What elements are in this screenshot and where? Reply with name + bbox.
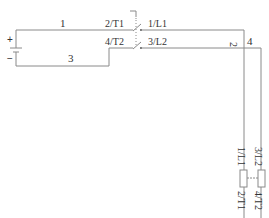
battery-minus-label: − [7,53,13,64]
switch-terminal-3l2: 3/L2 [148,36,167,47]
wire-3 [16,48,133,66]
relay-label-1l1: 1/L1 [236,147,247,166]
wire-4 [141,48,261,150]
relay-label-3l2: 3/L2 [253,147,264,166]
wire-3-label: 3 [68,52,74,64]
battery-symbol: + − [7,30,22,66]
wire-4-label: 4 [247,35,253,47]
switch-terminal-4t2: 4/T2 [105,36,124,47]
wire-1-label: 1 [60,17,66,29]
wiring-diagram: + − 1 3 2/T1 4/T2 1/L1 3/L2 2 4 1/L1 3/L… [0,0,269,218]
battery-plus-label: + [7,34,13,45]
relay-label-2t1: 2/T1 [236,191,247,210]
relay-label-4t2: 4/T2 [253,191,264,210]
switch-terminal-2t1: 2/T1 [105,18,124,29]
wire-2-label: 2 [228,42,239,47]
switch-terminal-1l1: 1/L1 [148,18,167,29]
